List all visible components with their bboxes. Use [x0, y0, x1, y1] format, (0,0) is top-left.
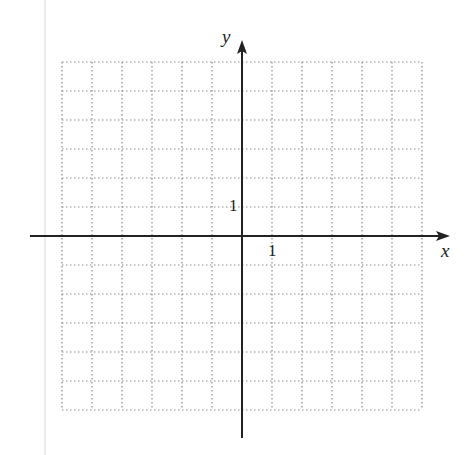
y-unit-tick-label: 1: [229, 196, 238, 216]
x-axis-label: x: [441, 240, 449, 262]
x-unit-tick-label: 1: [268, 241, 277, 261]
coordinate-plane: [0, 0, 475, 455]
y-axis-label: y: [222, 26, 230, 48]
x-axis: [30, 231, 450, 241]
y-axis: [237, 40, 247, 438]
